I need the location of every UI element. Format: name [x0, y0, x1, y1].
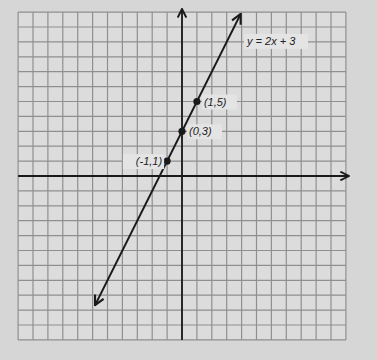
data-point [164, 158, 171, 165]
point-label: (0,3) [189, 125, 212, 137]
equation-label: y = 2x + 3 [246, 35, 296, 47]
data-point [193, 98, 200, 105]
data-point [178, 128, 185, 135]
coordinate-plane-chart: (-1,1)(0,3)(1,5)y = 2x + 3 [0, 0, 377, 360]
point-label: (-1,1) [136, 155, 163, 167]
point-label: (1,5) [204, 96, 227, 108]
